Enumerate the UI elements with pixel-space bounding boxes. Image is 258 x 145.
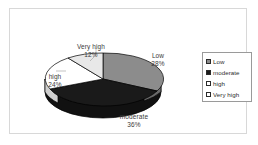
data-label-moderate: moderate 36%: [110, 113, 158, 129]
legend-label-high: high: [213, 80, 225, 87]
data-label-very-high: Very high 12%: [68, 43, 114, 59]
legend-swatch-very-high: [206, 92, 211, 97]
data-label-moderate-name: moderate: [120, 113, 148, 120]
screenshot-root: Very high 12% Low 28% high 24% moderate …: [0, 0, 258, 145]
legend-swatch-low: [206, 59, 211, 64]
legend-label-very-high: Very high: [213, 91, 239, 98]
data-label-low: Low 28%: [141, 52, 175, 68]
legend-item-low[interactable]: Low: [206, 56, 251, 67]
data-label-low-name: Low: [152, 52, 164, 59]
chart-legend: Low moderate high Very high: [202, 52, 252, 102]
legend-swatch-high: [206, 81, 211, 86]
data-label-high-pct: 24%: [42, 81, 68, 89]
data-label-very-high-pct: 12%: [68, 51, 114, 59]
data-label-low-pct: 28%: [141, 60, 175, 68]
pie-chart-area: Very high 12% Low 28% high 24% moderate …: [24, 21, 194, 139]
legend-item-high[interactable]: high: [206, 78, 251, 89]
data-label-very-high-name: Very high: [77, 43, 105, 50]
legend-label-moderate: moderate: [213, 69, 240, 76]
data-label-high-name: high: [49, 73, 62, 80]
data-label-high: high 24%: [42, 73, 68, 89]
legend-item-very-high[interactable]: Very high: [206, 89, 251, 100]
data-label-moderate-pct: 36%: [110, 121, 158, 129]
legend-label-low: Low: [213, 58, 225, 65]
legend-swatch-moderate: [206, 70, 211, 75]
chart-frame: Very high 12% Low 28% high 24% moderate …: [9, 8, 247, 134]
legend-item-moderate[interactable]: moderate: [206, 67, 251, 78]
